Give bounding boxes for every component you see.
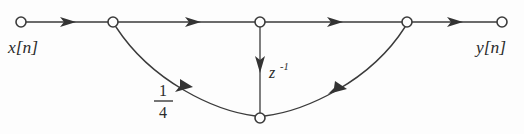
center-node [255, 17, 265, 27]
sum-node [402, 17, 412, 27]
output-node [497, 17, 507, 27]
delay-label: z [268, 64, 276, 81]
delay-exponent-label: -1 [280, 61, 289, 72]
arrowhead-feedback-to-sum [328, 81, 347, 94]
feedback-node [255, 113, 265, 123]
edge-feedback-to-branch [116, 27, 256, 116]
gain-numerator-label: 1 [159, 82, 167, 99]
input-signal-label: x[n] [7, 37, 38, 57]
output-signal-label: y[n] [474, 37, 506, 57]
branch-node [108, 17, 118, 27]
flow-graph-canvas: x[n] y[n] z -1 1 4 [0, 0, 524, 134]
signal-flow-graph-figure: x[n] y[n] z -1 1 4 [0, 0, 524, 134]
input-node [16, 17, 26, 27]
gain-denominator-label: 4 [159, 104, 167, 121]
